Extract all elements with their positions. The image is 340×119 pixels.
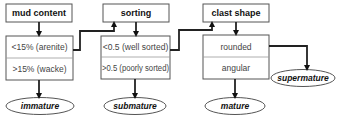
option-well-sorted: <0.5 (well sorted) <box>103 42 169 52</box>
option-poorly-sorted: >0.5 (poorly sorted) <box>102 63 169 73</box>
stage-clast-shape: clast shape rounded angular mature <box>203 4 269 115</box>
option-wacke: >15% (wacke) <box>12 64 66 74</box>
maturity-flowchart: mud content <15% (arenite) >15% (wacke) … <box>0 0 340 119</box>
result-supermature: supermature <box>277 73 329 83</box>
stage-sorting: sorting <0.5 (well sorted) >0.5 (poorly … <box>101 4 170 115</box>
option-arenite: <15% (arenite) <box>12 42 68 52</box>
result-immature: immature <box>21 101 60 111</box>
header-sorting: sorting <box>121 8 152 18</box>
header-clast-shape: clast shape <box>211 8 260 18</box>
result-mature: mature <box>221 101 250 111</box>
final-result: supermature <box>271 70 335 87</box>
option-angular: angular <box>222 63 251 73</box>
stage-mud-content: mud content <15% (arenite) >15% (wacke) … <box>6 4 74 115</box>
arrow-connector-icon <box>269 46 307 68</box>
option-rounded: rounded <box>220 42 251 52</box>
result-submature: submature <box>113 101 157 111</box>
header-mud-content: mud content <box>12 8 66 18</box>
